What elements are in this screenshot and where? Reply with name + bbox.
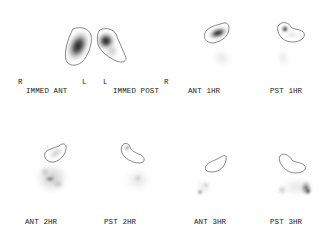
panel-ant-1hr <box>204 23 233 68</box>
panel-immed-post <box>96 29 126 62</box>
panel-pst-3hr <box>277 154 314 197</box>
roi-outline <box>279 154 305 173</box>
orientation-marker-right: R <box>164 79 169 87</box>
panel-label-ant-1hr: ANT 1HR <box>188 88 220 96</box>
panel-pst-2hr <box>121 143 153 193</box>
panel-ant-2hr <box>35 144 69 193</box>
panel-label-pst-3hr: PST 3HR <box>270 219 302 227</box>
panel-label-immed-post: IMMED POST <box>113 88 159 96</box>
orientation-marker-left: L <box>103 79 108 87</box>
panel-label-ant-2hr: ANT 2HR <box>25 219 57 227</box>
panel-pst-1hr <box>277 23 304 68</box>
panel-label-ant-3hr: ANT 3HR <box>194 219 226 227</box>
panel-ant-3hr <box>195 156 226 195</box>
roi-outline <box>205 156 226 172</box>
panel-label-immed-ant: IMMED ANT <box>26 88 67 96</box>
orientation-marker-left: L <box>82 79 87 87</box>
panel-label-pst-2hr: PST 2HR <box>104 219 136 227</box>
orientation-marker-right: R <box>18 79 23 87</box>
panel-label-pst-1hr: PST 1HR <box>270 88 302 96</box>
scintigraphy-figure <box>0 0 331 247</box>
panel-immed-ant <box>61 26 95 66</box>
